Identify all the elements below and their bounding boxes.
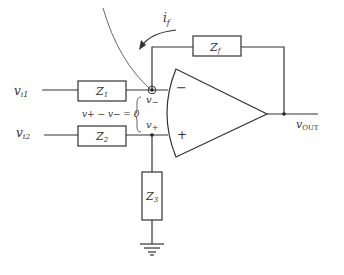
vi2-label: vi2 — [16, 126, 30, 141]
v-minus-node — [150, 88, 154, 92]
constraint-label: v+ − v− = 0 — [82, 109, 140, 119]
ground-icon — [140, 244, 164, 255]
feedback-current-arrow — [142, 30, 176, 46]
op-amp-minus-sign: − — [176, 80, 187, 95]
op-amp-circuit-diagram: if Zf vi1 Z1 v− v+ − v− = 0 vi2 Z2 v+ − … — [0, 0, 344, 275]
v-minus-label: v− — [146, 94, 158, 107]
vi1-label: vi1 — [14, 84, 28, 99]
feedback-current-label: if — [163, 11, 172, 27]
vout-label: vOUT — [296, 118, 319, 132]
v-plus-label: v+ — [146, 119, 158, 132]
output-node — [282, 112, 286, 116]
op-amp-plus-sign: + — [177, 128, 187, 142]
annotation-curve — [103, 8, 150, 89]
